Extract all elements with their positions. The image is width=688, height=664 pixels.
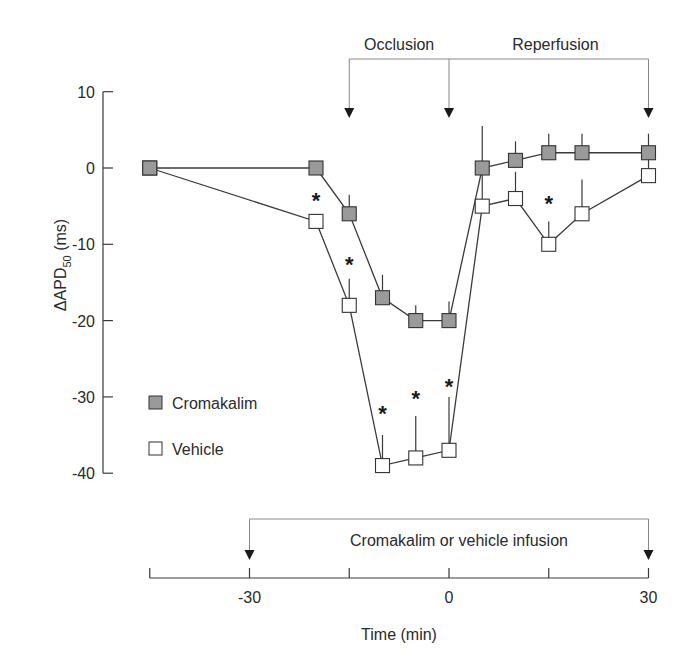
y-axis-label-sub: 50 [61, 255, 73, 267]
significance-star: * [544, 191, 553, 216]
data-point-vehicle [342, 298, 356, 312]
arrow-down-icon [444, 108, 454, 118]
arrow-down-icon [344, 108, 354, 118]
data-point-vehicle [642, 169, 656, 183]
y-tick-label: -10 [72, 236, 95, 253]
significance-star: * [445, 374, 454, 399]
arrow-down-icon [644, 108, 654, 118]
chart: 100-10-20-30-40 -30030 OcclusionReperfus… [0, 0, 688, 664]
data-point-vehicle [409, 451, 423, 465]
data-point-cromakalim [509, 153, 523, 167]
x-tick-label: -30 [238, 589, 261, 606]
y-axis-label: ΔAPD50 (ms) [52, 219, 73, 311]
arrow-down-icon [644, 550, 654, 560]
data-point-cromakalim [376, 291, 390, 305]
data-point-cromakalim [342, 207, 356, 221]
x-tick-label: 30 [640, 589, 658, 606]
data-point-cromakalim [642, 146, 656, 160]
y-axis-label-unit: (ms) [52, 219, 69, 255]
data-point-cromakalim [309, 161, 323, 175]
data-point-cromakalim [542, 146, 556, 160]
data-point-vehicle [509, 192, 523, 206]
significance-star: * [345, 252, 354, 277]
data-point-vehicle [542, 237, 556, 251]
data-point-cromakalim [475, 161, 489, 175]
data-point-cromakalim [143, 161, 157, 175]
y-axis-label-main: ΔAPD [52, 268, 69, 312]
data-point-vehicle [475, 199, 489, 213]
y-axis: 100-10-20-30-40 [72, 84, 113, 483]
y-tick-label: 0 [86, 160, 95, 177]
series-line-vehicle [150, 168, 649, 466]
y-tick-label: -20 [72, 313, 95, 330]
occlusion-label: Occlusion [364, 36, 434, 53]
y-tick-label: 10 [77, 84, 95, 101]
infusion-label: Cromakalim or vehicle infusion [350, 532, 568, 549]
phase-annotations: OcclusionReperfusionCromakalim or vehicl… [245, 36, 654, 560]
data-point-vehicle [575, 207, 589, 221]
legend-vehicle-swatch [149, 442, 162, 455]
legend: Cromakalim Vehicle [149, 395, 257, 458]
significance-star: * [312, 188, 321, 213]
x-tick-label: 0 [445, 589, 454, 606]
data-point-vehicle [442, 443, 456, 457]
y-tick-label: -40 [72, 465, 95, 482]
arrow-down-icon [245, 550, 255, 560]
data-point-vehicle [309, 214, 323, 228]
legend-cromakalim-label: Cromakalim [172, 395, 257, 412]
legend-vehicle-label: Vehicle [172, 441, 224, 458]
y-tick-label: -30 [72, 389, 95, 406]
significance-star: * [411, 386, 420, 411]
series-layer [143, 126, 656, 473]
data-point-cromakalim [409, 314, 423, 328]
series-line-cromakalim [150, 153, 649, 321]
data-point-vehicle [376, 459, 390, 473]
data-point-cromakalim [575, 146, 589, 160]
significance-star: * [378, 401, 387, 426]
x-axis: -30030 [150, 568, 658, 606]
data-point-cromakalim [442, 314, 456, 328]
legend-cromakalim-swatch [149, 396, 162, 409]
x-axis-label: Time (min) [361, 626, 437, 643]
reperfusion-label: Reperfusion [512, 36, 598, 53]
